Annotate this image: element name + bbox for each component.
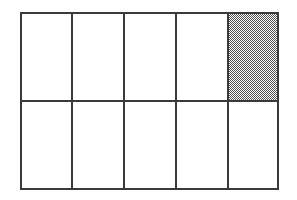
figure-canvas: [0, 0, 297, 200]
cell-r2c1: [21, 102, 72, 190]
cell-r1c5-shaded: [229, 13, 279, 101]
cell-r1c4: [177, 13, 228, 101]
cell-r1c3: [125, 13, 176, 101]
cell-r2c4: [177, 102, 228, 190]
cell-r2c5: [229, 102, 279, 190]
cell-r2c2: [73, 102, 124, 190]
fraction-grid-diagram: [0, 0, 297, 200]
cell-r1c1: [21, 13, 72, 101]
cell-r1c2: [73, 13, 124, 101]
cell-r2c3: [125, 102, 176, 190]
